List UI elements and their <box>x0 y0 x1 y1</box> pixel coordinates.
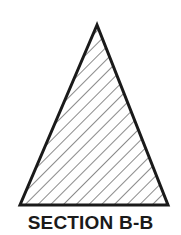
hatched-triangle-section <box>20 25 168 205</box>
section-diagram <box>0 0 181 235</box>
section-caption: SECTION B-B <box>0 212 181 234</box>
